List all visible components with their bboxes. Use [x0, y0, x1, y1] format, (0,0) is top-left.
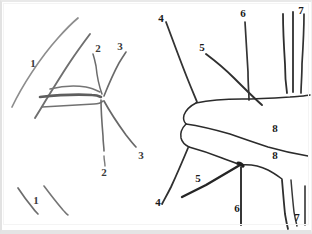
- radiating-stroke-2-lower: [101, 100, 104, 151]
- radiating-stroke-3-upper: [104, 52, 126, 96]
- annotation-label-4: 4: [155, 197, 161, 208]
- annotation-label-3: 3: [117, 41, 123, 52]
- horizontal-top-line: [50, 86, 100, 92]
- annotation-label-6: 6: [234, 203, 240, 214]
- radiating-stroke-3-lower: [104, 101, 136, 147]
- annotation-label-3: 3: [138, 150, 144, 161]
- annotation-label-4: 4: [158, 13, 164, 24]
- annotation-label-1: 1: [30, 58, 36, 69]
- figure-canvas: 1232314567885467: [0, 0, 312, 234]
- line-7a-upper: [283, 14, 287, 93]
- annotation-label-6: 6: [240, 8, 246, 19]
- annotation-label-2: 2: [101, 167, 107, 178]
- annotation-label-5: 5: [195, 173, 201, 184]
- radiating-stroke-2-lower-tail: [104, 156, 105, 166]
- horizontal-middle-line: [40, 95, 101, 97]
- contour-left-notch: [184, 103, 196, 124]
- annotation-label-2: 2: [95, 43, 101, 54]
- annotation-label-5: 5: [199, 42, 205, 53]
- annotation-label-8: 8: [272, 150, 278, 161]
- bottom-short-stroke-right: [44, 186, 68, 215]
- line-4-upper: [166, 22, 197, 102]
- right-panel-strokes: [162, 12, 310, 229]
- annotation-label-1: 1: [33, 195, 39, 206]
- line-5-lower: [182, 165, 240, 197]
- contour-right-lower-step: [240, 165, 282, 179]
- radiating-stroke-2-upper: [93, 54, 102, 94]
- annotation-label-8: 8: [272, 123, 278, 134]
- line-7c-upper: [301, 14, 304, 93]
- horizontal-bottom-line: [42, 101, 103, 107]
- annotation-label-7: 7: [298, 5, 304, 16]
- line-5-upper: [206, 54, 262, 105]
- contour-lower-left: [181, 124, 189, 147]
- line-7a-lower: [282, 180, 288, 229]
- annotation-label-7: 7: [294, 212, 300, 223]
- contour-lower-arc: [189, 147, 240, 165]
